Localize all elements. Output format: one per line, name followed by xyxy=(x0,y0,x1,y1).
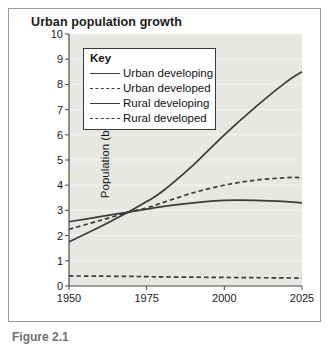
y-tick-label: 4 xyxy=(57,179,63,191)
y-tick-label: 2 xyxy=(57,230,63,242)
legend-item: Rural developed xyxy=(90,110,210,125)
legend-item: Urban developed xyxy=(90,80,210,95)
x-tick-label: 2025 xyxy=(290,292,314,304)
plot-wrapper: Population (billions) 012345678910 19501… xyxy=(69,34,302,286)
page-title: Urban population growth xyxy=(31,15,182,29)
legend-item: Rural developing xyxy=(90,95,210,110)
figure-panel: Urban population growth Population (bill… xyxy=(8,8,321,322)
series-line xyxy=(69,276,302,278)
legend-item-label: Urban developing xyxy=(120,67,213,79)
legend-items: Urban developingUrban developedRural dev… xyxy=(90,65,210,125)
x-tick-label: 1975 xyxy=(134,292,158,304)
y-tick-label: 8 xyxy=(57,78,63,90)
legend-line-icon xyxy=(90,113,120,123)
x-tick-label: 2000 xyxy=(212,292,236,304)
chart-legend: Key Urban developingUrban developedRural… xyxy=(83,48,216,130)
y-tick-label: 3 xyxy=(57,204,63,216)
y-tick-label: 7 xyxy=(57,104,63,116)
y-tick-label: 10 xyxy=(51,28,63,40)
legend-line-icon xyxy=(90,98,120,108)
figure-caption: Figure 2.1 xyxy=(12,330,69,344)
legend-item-label: Rural developing xyxy=(120,97,209,109)
y-tick-label: 9 xyxy=(57,53,63,65)
legend-title: Key xyxy=(90,52,210,64)
legend-item-label: Urban developed xyxy=(120,82,211,94)
y-tick-label: 0 xyxy=(57,280,63,292)
legend-line-icon xyxy=(90,83,120,93)
y-tick-label: 1 xyxy=(57,255,63,267)
legend-line-icon xyxy=(90,68,120,78)
legend-item: Urban developing xyxy=(90,65,210,80)
legend-item-label: Rural developed xyxy=(120,112,207,124)
y-tick-label: 5 xyxy=(57,154,63,166)
x-tick-label: 1950 xyxy=(57,292,81,304)
y-tick-label: 6 xyxy=(57,129,63,141)
